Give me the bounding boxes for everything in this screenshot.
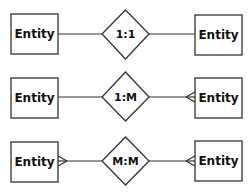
entity-left[interactable]: Entity (11, 78, 58, 118)
relationship-label: M:M (112, 155, 138, 168)
relationship-label: 1:1 (116, 28, 136, 41)
relationship-row-one-to-one: Entity 1:1 Entity (11, 10, 242, 59)
crows-foot-many-icon (186, 92, 195, 102)
entity-left[interactable]: Entity (11, 14, 58, 54)
entity-label: Entity (14, 27, 54, 41)
entity-label: Entity (198, 154, 238, 168)
er-cardinality-diagram: Entity 1:1 Entity Entity 1:M Entit (0, 0, 251, 195)
entity-left[interactable]: Entity (11, 142, 58, 182)
entity-label: Entity (14, 155, 54, 169)
entity-label: Entity (14, 91, 54, 105)
entity-right[interactable]: Entity (195, 141, 242, 181)
entity-right[interactable]: Entity (195, 15, 242, 55)
relationship-diamond[interactable]: 1:1 (102, 10, 149, 59)
crows-foot-many-icon (58, 156, 67, 166)
entity-right[interactable]: Entity (195, 78, 242, 118)
relationship-row-many-to-many: Entity M:M Entity (11, 137, 242, 185)
entity-label: Entity (198, 91, 238, 105)
relationship-label: 1:M (114, 91, 137, 104)
relationship-row-one-to-many: Entity 1:M Entity (11, 72, 242, 121)
entity-label: Entity (198, 28, 238, 42)
relationship-diamond[interactable]: M:M (102, 137, 149, 185)
relationship-diamond[interactable]: 1:M (102, 72, 149, 121)
crows-foot-many-icon (186, 156, 195, 166)
